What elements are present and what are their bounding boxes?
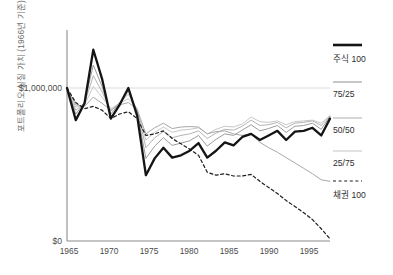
- plot-area: [0, 0, 393, 275]
- data-series-group: [67, 50, 330, 239]
- legend-swatches: [333, 45, 362, 181]
- series-line-채권-100: [67, 88, 330, 239]
- chart-container: 포트폴리오 실질 가치 (1966년 기준) $1,000,000 $0 196…: [0, 0, 393, 275]
